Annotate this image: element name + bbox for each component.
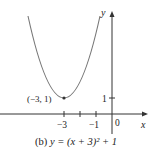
- caption-prefix: (b): [35, 136, 50, 147]
- caption-formula: y = (x + 3)² + 1: [50, 136, 117, 147]
- y-axis-arrow-icon: [110, 11, 115, 17]
- x-axis-label: x: [140, 119, 146, 130]
- vertex-label: (−3, 1): [27, 94, 52, 104]
- origin-label: 0: [115, 118, 120, 128]
- vertex-point: [62, 96, 65, 99]
- y-axis-label: y: [100, 7, 106, 18]
- x-tick-label-neg1: −1: [89, 120, 99, 130]
- graph: y x 0 −3 −1 1 (−3, 1): [0, 0, 152, 156]
- figure-caption: (b) y = (x + 3)² + 1: [0, 136, 152, 147]
- x-axis-arrow-icon: [142, 112, 148, 117]
- parabola-curve: [28, 16, 100, 98]
- x-tick-label-neg3: −3: [57, 120, 67, 130]
- y-tick-label-1: 1: [102, 94, 107, 104]
